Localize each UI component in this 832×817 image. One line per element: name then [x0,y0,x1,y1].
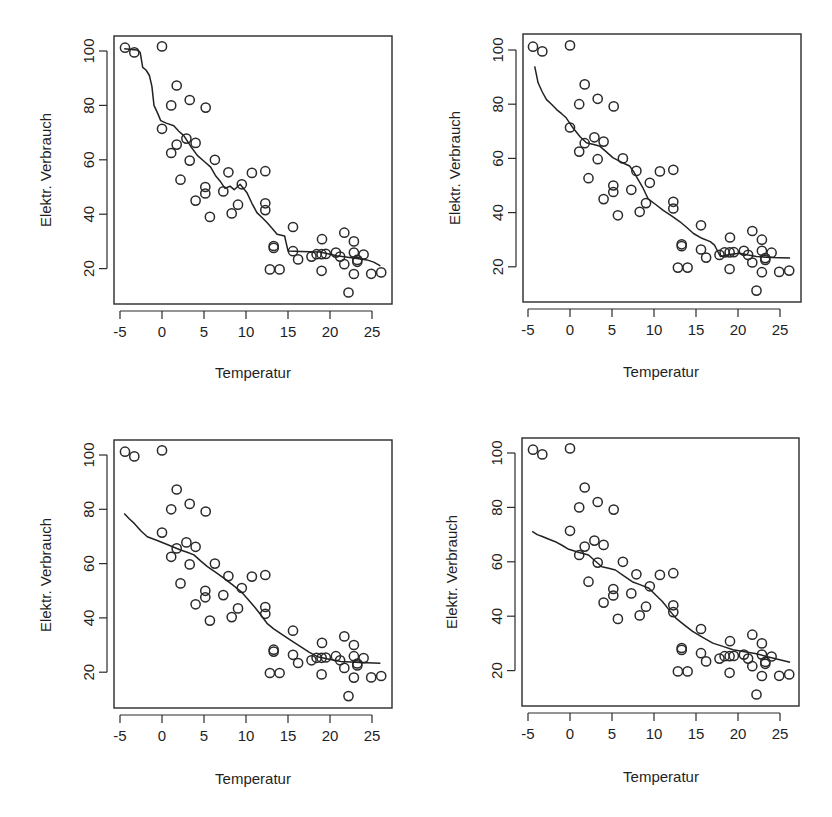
figure-2x2-scatter-grid: Temperatur Elektr. Verbrauch -5051015202… [0,0,832,817]
y-tick-label: 60 [488,553,505,570]
data-point [627,589,636,598]
data-point [120,43,129,52]
x-axis: -50510152025 [521,309,788,338]
data-point [565,444,574,453]
data-point [609,102,618,111]
data-point [725,264,734,273]
data-point [565,526,574,535]
y-tick-label: 60 [489,150,506,167]
data-point [157,124,166,133]
data-point [683,667,692,676]
y-axis: 20406080100 [488,440,515,678]
data-point [210,155,219,164]
data-point [294,255,303,264]
data-point [599,195,608,204]
x-tick-label: 20 [730,725,747,742]
x-tick-label: 25 [364,323,381,340]
x-tick-label: 15 [688,725,705,742]
y-axis-label: Elektr. Verbrauch [37,518,54,632]
y-tick-label: 100 [489,37,506,62]
data-point [767,248,776,257]
data-point [157,42,166,51]
y-tick-label: 80 [80,97,97,114]
data-point [593,497,602,506]
y-tick-label: 60 [80,555,97,572]
data-point [632,570,641,579]
y-tick-label: 20 [80,664,97,681]
y-axis: 20406080100 [80,38,107,276]
x-axis: -50510152025 [113,715,380,744]
data-point [233,200,242,209]
data-point [580,80,589,89]
data-point [182,538,191,547]
data-point [317,235,326,244]
y-tick-label: 20 [80,260,97,277]
data-point [702,253,711,262]
data-point [157,446,166,455]
data-point [575,147,584,156]
x-tick-label: -5 [521,321,534,338]
data-point [205,212,214,221]
data-point [167,148,176,157]
data-point [590,536,599,545]
data-point [641,602,650,611]
data-point [233,604,242,613]
data-point [635,207,644,216]
data-point [599,540,608,549]
x-tick-label: 20 [322,323,339,340]
smoothing-curve [532,531,790,662]
data-point [275,668,284,677]
data-point [201,189,210,198]
x-tick-label: 0 [566,321,574,338]
data-point [785,670,794,679]
data-point [696,624,705,633]
data-point [210,559,219,568]
x-tick-label: -5 [113,323,126,340]
data-point [565,41,574,50]
data-point [191,600,200,609]
data-point [185,95,194,104]
x-tick-label: 25 [772,725,789,742]
data-point [247,168,256,177]
data-point [317,670,326,679]
data-point [627,185,636,194]
data-point [590,133,599,142]
data-point [176,579,185,588]
data-point [265,668,274,677]
x-tick-label: 0 [158,727,166,744]
data-point [275,265,284,274]
x-axis-label: Temperatur [215,770,291,787]
data-point [618,557,627,566]
x-tick-label: 15 [280,323,297,340]
data-point [224,168,233,177]
data-point [613,211,622,220]
x-tick-label: 10 [646,321,663,338]
data-point [528,445,537,454]
x-axis-label: Temperatur [215,364,291,381]
data-point [593,94,602,103]
data-point [237,583,246,592]
data-point [261,167,270,176]
y-tick-label: 40 [80,206,97,223]
x-tick-label: 5 [608,321,616,338]
y-axis-label: Elektr. Verbrauch [443,515,460,629]
y-tick-label: 60 [80,151,97,168]
x-axis: -50510152025 [521,713,788,742]
data-point [377,268,386,277]
data-point [702,657,711,666]
smoothing-curve [124,49,380,266]
data-point [205,616,214,625]
x-axis: -50510152025 [113,311,380,340]
y-tick-label: 100 [80,442,97,467]
data-point [288,626,297,635]
data-point [359,250,368,259]
y-tick-label: 20 [488,662,505,679]
data-point [580,483,589,492]
data-point [172,485,181,494]
data-point [201,103,210,112]
data-point [599,598,608,607]
x-axis-label: Temperatur [623,768,699,785]
data-point [349,673,358,682]
data-point [344,288,353,297]
panel-bottom-right: Temperatur Elektr. Verbrauch -5051015202… [443,438,799,785]
